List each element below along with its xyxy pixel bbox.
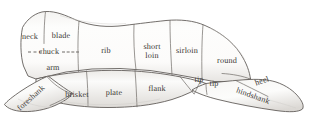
beef-carcass-illustration	[0, 0, 309, 130]
beef-cuts-diagram: neck blade chuck arm rib short loin sirl…	[0, 0, 309, 130]
hindshank-outline-shape	[192, 79, 303, 111]
